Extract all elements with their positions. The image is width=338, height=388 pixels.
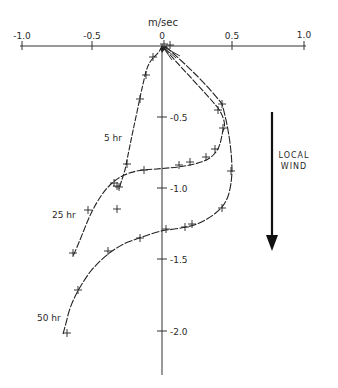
curve-label-50hr: 50 hr — [37, 313, 61, 323]
hodograph-diagram: m/sec -1.0 -0.5 0 0.5 1.0 -0.5 -1.0 -1.5… — [0, 0, 338, 388]
curve-label-5hr: 5 hr — [104, 133, 122, 143]
data-markers-5hr — [115, 53, 157, 191]
x-tick-label: 1.0 — [297, 30, 312, 40]
x-tick-label: -0.5 — [83, 31, 101, 41]
y-tick-label: -1.0 — [170, 184, 188, 194]
x-tick-label: 0 — [159, 31, 165, 41]
wind-label-line1: LOCAL — [279, 151, 310, 160]
curve-25hr — [73, 48, 225, 256]
y-tick-label: -0.5 — [170, 113, 188, 123]
y-tick-label: -1.5 — [170, 255, 188, 265]
wind-label-line2: WIND — [281, 162, 307, 171]
diagram-canvas: m/sec -1.0 -0.5 0 0.5 1.0 -0.5 -1.0 -1.5… — [0, 0, 338, 388]
y-tick-label: -2.0 — [170, 327, 188, 337]
x-tick-label: -1.0 — [13, 31, 31, 41]
x-axis-title: m/sec — [148, 17, 178, 28]
curve-label-25hr: 25 hr — [52, 210, 76, 220]
arrow-down-icon — [266, 235, 278, 251]
x-tick-label: 0.5 — [225, 31, 239, 41]
curve-50hr — [63, 46, 232, 334]
curve-5hr — [119, 46, 162, 189]
